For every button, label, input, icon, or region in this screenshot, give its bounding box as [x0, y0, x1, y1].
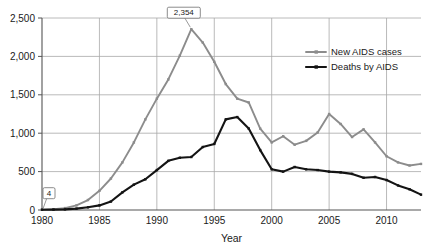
x-axis-title: Year: [221, 232, 243, 244]
legend-swatch-marker: [315, 50, 318, 53]
data-point-marker: [156, 169, 158, 171]
data-point-marker: [133, 183, 135, 185]
data-point-marker: [420, 193, 422, 195]
data-point-marker: [339, 171, 341, 173]
legend-swatch-marker: [315, 65, 318, 68]
data-point-marker: [75, 207, 77, 209]
data-point-marker: [397, 184, 399, 186]
data-point-marker: [98, 204, 100, 206]
data-point-marker: [305, 168, 307, 170]
data-point-marker: [259, 149, 261, 151]
data-point-marker: [362, 128, 364, 130]
data-point-marker: [98, 190, 100, 192]
data-point-marker: [293, 144, 295, 146]
data-point-marker: [144, 118, 146, 120]
data-point-marker: [190, 156, 192, 158]
data-point-marker: [316, 131, 318, 133]
data-point-marker: [87, 206, 89, 208]
data-point-marker: [213, 61, 215, 63]
data-point-marker: [316, 169, 318, 171]
data-point-marker: [305, 140, 307, 142]
x-axis-tick-label: 2005: [318, 215, 341, 226]
data-point-marker: [293, 166, 295, 168]
aids-cases-deaths-line-chart: 05001,0001,5002,0002,5001980198519901995…: [0, 0, 442, 245]
data-point-marker: [225, 83, 227, 85]
y-axis-tick-label: 0: [29, 205, 35, 216]
data-point-marker: [121, 191, 123, 193]
data-point-marker: [248, 127, 250, 129]
data-point-marker: [328, 170, 330, 172]
data-point-marker: [167, 78, 169, 80]
data-point-marker: [202, 41, 204, 43]
data-point-marker: [110, 200, 112, 202]
data-point-marker: [271, 141, 273, 143]
data-point-marker: [374, 141, 376, 143]
data-point-marker: [374, 176, 376, 178]
data-point-marker: [259, 127, 261, 129]
data-point-marker: [236, 116, 238, 118]
y-axis-tick-label: 2,000: [10, 51, 35, 62]
data-point-marker: [121, 161, 123, 163]
data-point-marker: [385, 179, 387, 181]
x-axis-tick-label: 1985: [88, 215, 111, 226]
data-point-marker: [144, 178, 146, 180]
callout-label-peak: 2,354: [174, 8, 195, 17]
data-point-marker: [282, 170, 284, 172]
data-point-marker: [52, 208, 54, 210]
data-point-marker: [408, 164, 410, 166]
x-axis-tick-label: 2010: [375, 215, 398, 226]
x-axis-tick-label: 1995: [203, 215, 226, 226]
data-point-marker: [156, 97, 158, 99]
y-axis-tick-label: 1,500: [10, 89, 35, 100]
data-point-marker: [282, 135, 284, 137]
data-point-marker: [41, 208, 43, 210]
data-point-marker: [328, 113, 330, 115]
data-point-marker: [179, 157, 181, 159]
x-axis-tick-label: 1980: [31, 215, 54, 226]
data-point-marker: [213, 143, 215, 145]
data-point-marker: [397, 161, 399, 163]
data-point-marker: [271, 168, 273, 170]
data-point-marker: [190, 28, 192, 30]
data-point-marker: [362, 177, 364, 179]
data-point-marker: [167, 160, 169, 162]
data-point-marker: [351, 136, 353, 138]
data-point-marker: [87, 199, 89, 201]
x-axis-tick-label: 1990: [146, 215, 169, 226]
legend-label: Deaths by AIDS: [331, 61, 398, 72]
data-point-marker: [202, 146, 204, 148]
data-point-marker: [248, 101, 250, 103]
data-point-marker: [420, 163, 422, 165]
callout-leader-line-peak: [184, 17, 190, 27]
y-axis-tick-label: 500: [18, 166, 35, 177]
callout-label-start: 4: [47, 189, 52, 198]
legend-label: New AIDS cases: [331, 46, 402, 57]
data-point-marker: [225, 118, 227, 120]
data-point-marker: [351, 173, 353, 175]
callout-leader-line-start: [43, 198, 47, 209]
y-axis-tick-label: 1,000: [10, 128, 35, 139]
data-point-marker: [408, 188, 410, 190]
data-point-marker: [110, 177, 112, 179]
data-point-marker: [236, 97, 238, 99]
x-axis-tick-label: 2000: [261, 215, 284, 226]
data-point-marker: [179, 54, 181, 56]
data-point-marker: [75, 204, 77, 206]
data-point-marker: [339, 123, 341, 125]
chart-canvas: 05001,0001,5002,0002,5001980198519901995…: [0, 0, 442, 245]
data-point-marker: [385, 155, 387, 157]
data-point-marker: [133, 141, 135, 143]
data-point-marker: [64, 208, 66, 210]
y-axis-tick-label: 2,500: [10, 13, 35, 24]
